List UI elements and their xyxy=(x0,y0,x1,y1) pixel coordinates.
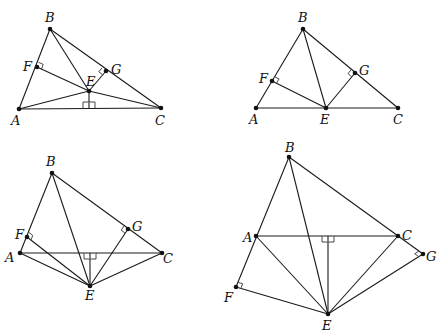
point-a xyxy=(18,251,23,256)
label-e: E xyxy=(321,318,332,333)
label-g: G xyxy=(359,63,369,78)
point-c xyxy=(396,106,401,111)
segment-ab xyxy=(256,29,303,108)
segment-ac xyxy=(19,108,161,109)
right-angle-marker xyxy=(89,102,95,108)
point-g xyxy=(104,69,109,74)
figure-3: ABCEFG xyxy=(4,154,173,303)
label-e: E xyxy=(319,112,330,127)
label-f: F xyxy=(258,71,269,86)
geometry-figures: ABCEFG ABCEFG ABCEFG ABCEFG xyxy=(0,0,439,334)
segment-be xyxy=(303,29,326,108)
label-g: G xyxy=(426,249,436,264)
point-g xyxy=(353,71,358,76)
point-a xyxy=(254,234,259,239)
label-g: G xyxy=(111,62,121,77)
point-f xyxy=(270,79,275,84)
point-e xyxy=(326,312,331,317)
segment-bc xyxy=(303,29,398,108)
label-f: F xyxy=(223,290,234,305)
segment-eg xyxy=(326,73,355,108)
segment-ef xyxy=(27,237,90,286)
label-g: G xyxy=(132,219,142,234)
segment-ae xyxy=(20,253,90,286)
label-a: A xyxy=(10,113,20,128)
segment-eg xyxy=(328,254,423,314)
point-a xyxy=(17,107,22,112)
label-b: B xyxy=(297,10,308,25)
label-e: E xyxy=(85,74,96,89)
point-b xyxy=(48,27,53,32)
label-c: C xyxy=(402,228,412,243)
segment-ae xyxy=(19,91,89,109)
point-f xyxy=(35,65,40,70)
label-f: F xyxy=(14,227,25,242)
point-e xyxy=(324,106,329,111)
label-f: F xyxy=(22,59,33,74)
label-b: B xyxy=(45,154,56,169)
label-c: C xyxy=(393,112,403,127)
point-a xyxy=(254,106,259,111)
right-angle-marker xyxy=(84,253,90,259)
point-g xyxy=(126,227,131,232)
figure-1: ABCEFG xyxy=(10,10,165,128)
segment-bc xyxy=(52,173,162,253)
point-c xyxy=(396,234,401,239)
right-angle-marker xyxy=(415,251,419,257)
segment-ef xyxy=(236,287,328,314)
segment-ae xyxy=(256,236,328,314)
right-angle-marker xyxy=(348,70,352,77)
point-e xyxy=(87,89,92,94)
label-c: C xyxy=(163,251,173,266)
point-f xyxy=(234,285,239,290)
figure-4: ABCEFG xyxy=(223,140,436,333)
segment-be xyxy=(52,173,90,286)
label-b: B xyxy=(44,10,55,25)
label-a: A xyxy=(248,112,258,127)
point-b xyxy=(301,27,306,32)
label-a: A xyxy=(242,230,252,245)
point-c xyxy=(159,106,164,111)
segment-bc xyxy=(50,29,161,108)
right-angle-marker xyxy=(90,253,96,259)
label-c: C xyxy=(155,113,165,128)
figure-2: ABCEFG xyxy=(248,10,403,127)
label-b: B xyxy=(284,140,295,155)
point-g xyxy=(421,252,426,257)
label-e: E xyxy=(84,288,95,303)
segment-fb xyxy=(236,157,289,287)
segment-ab xyxy=(20,173,52,253)
point-b xyxy=(50,171,55,176)
segment-ef xyxy=(272,81,326,108)
label-a: A xyxy=(4,250,14,265)
right-angle-marker xyxy=(83,102,89,108)
segment-ec xyxy=(328,236,398,314)
right-angle-marker xyxy=(99,68,103,75)
point-f xyxy=(25,235,30,240)
right-angle-marker xyxy=(328,236,334,242)
right-angle-marker xyxy=(121,226,125,233)
point-b xyxy=(287,155,292,160)
right-angle-marker xyxy=(322,236,328,242)
segment-ec xyxy=(89,91,161,108)
